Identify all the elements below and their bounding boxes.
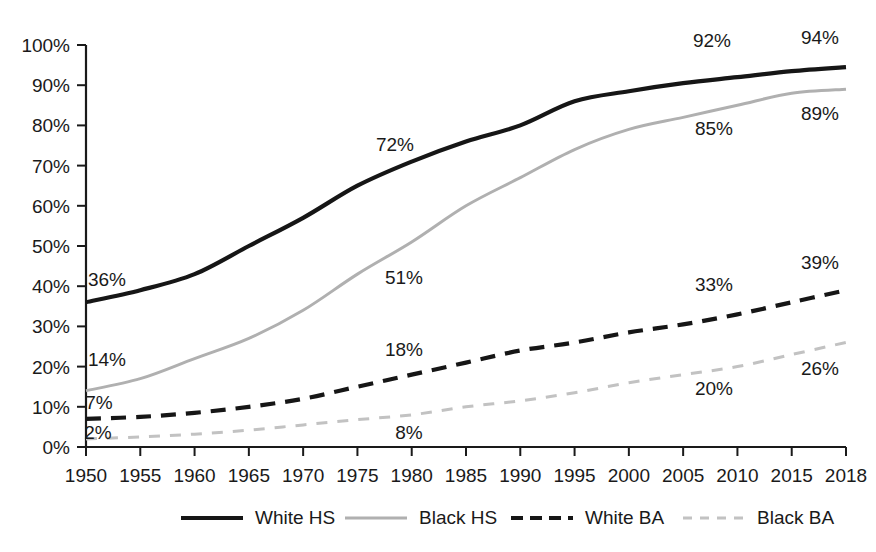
y-tick-label: 90% bbox=[32, 75, 70, 96]
legend-item-white-hs[interactable]: White HS bbox=[181, 507, 335, 528]
x-tick-label: 1950 bbox=[65, 465, 107, 486]
x-tick-label: 1985 bbox=[445, 465, 487, 486]
x-tick-label: 1990 bbox=[499, 465, 541, 486]
y-tick-label: 80% bbox=[32, 115, 70, 136]
y-tick-label: 30% bbox=[32, 316, 70, 337]
y-tick-label: 70% bbox=[32, 156, 70, 177]
data-label: 39% bbox=[801, 252, 839, 273]
legend-item-black-ba[interactable]: Black BA bbox=[683, 507, 834, 528]
legend-item-black-hs[interactable]: Black HS bbox=[345, 507, 497, 528]
x-tick-label: 2010 bbox=[716, 465, 758, 486]
x-tick-label: 2005 bbox=[662, 465, 704, 486]
x-tick-label: 1965 bbox=[228, 465, 270, 486]
line-chart: 0%10%20%30%40%50%60%70%80%90%100% 195019… bbox=[0, 0, 876, 552]
y-tick-label: 40% bbox=[32, 276, 70, 297]
x-tick-label: 2018 bbox=[825, 465, 867, 486]
data-label: 2% bbox=[84, 422, 112, 443]
x-tick-label: 1995 bbox=[553, 465, 595, 486]
data-label: 94% bbox=[801, 27, 839, 48]
y-tick-label: 50% bbox=[32, 236, 70, 257]
data-label: 72% bbox=[376, 134, 414, 155]
data-label: 89% bbox=[801, 103, 839, 124]
x-tick-label: 1960 bbox=[173, 465, 215, 486]
x-tick-label: 1970 bbox=[282, 465, 324, 486]
y-tick-label: 0% bbox=[43, 437, 71, 458]
chart-container: 0%10%20%30%40%50%60%70%80%90%100% 195019… bbox=[0, 0, 876, 552]
data-labels-layer: 36%72%92%94%14%51%85%89%7%18%33%39%2%8%2… bbox=[84, 27, 839, 443]
legend-label: Black BA bbox=[757, 507, 834, 528]
data-label: 8% bbox=[395, 422, 423, 443]
x-tick-label: 1975 bbox=[336, 465, 378, 486]
series-line-white-hs bbox=[86, 67, 846, 302]
y-axis-ticks: 0%10%20%30%40%50%60%70%80%90%100% bbox=[21, 35, 86, 458]
data-label: 85% bbox=[695, 118, 733, 139]
x-tick-label: 1980 bbox=[391, 465, 433, 486]
legend-label: White HS bbox=[255, 507, 335, 528]
y-tick-label: 20% bbox=[32, 357, 70, 378]
series-line-white-ba bbox=[86, 290, 846, 419]
y-tick-label: 10% bbox=[32, 397, 70, 418]
data-label: 7% bbox=[85, 392, 113, 413]
x-tick-label: 2000 bbox=[608, 465, 650, 486]
data-label: 92% bbox=[693, 30, 731, 51]
chart-legend: White HSBlack HSWhite BABlack BA bbox=[181, 507, 834, 528]
data-label: 14% bbox=[88, 349, 126, 370]
y-tick-label: 100% bbox=[21, 35, 70, 56]
data-label: 51% bbox=[385, 267, 423, 288]
data-label: 20% bbox=[695, 378, 733, 399]
x-tick-label: 2015 bbox=[771, 465, 813, 486]
data-label: 18% bbox=[385, 339, 423, 360]
legend-item-white-ba[interactable]: White BA bbox=[511, 507, 665, 528]
data-label: 33% bbox=[695, 274, 733, 295]
x-tick-label: 1955 bbox=[119, 465, 161, 486]
data-label: 36% bbox=[88, 269, 126, 290]
x-axis-ticks: 1950195519601965197019751980198519901995… bbox=[65, 447, 867, 486]
legend-label: White BA bbox=[585, 507, 665, 528]
y-tick-label: 60% bbox=[32, 196, 70, 217]
data-label: 26% bbox=[801, 358, 839, 379]
legend-label: Black HS bbox=[419, 507, 497, 528]
